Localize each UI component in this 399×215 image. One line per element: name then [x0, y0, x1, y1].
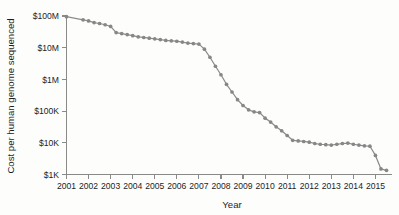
- data-point-marker: [197, 42, 201, 46]
- data-point-marker: [203, 47, 207, 51]
- data-point-marker: [131, 34, 135, 38]
- data-point-marker: [335, 142, 339, 146]
- data-point-marker: [307, 140, 311, 144]
- y-tick-label: $10K: [39, 138, 59, 148]
- data-point-marker: [313, 142, 317, 146]
- data-point-marker: [285, 134, 289, 138]
- x-tick-label: 2011: [278, 181, 297, 191]
- data-point-marker: [374, 154, 378, 158]
- data-point-marker: [92, 21, 96, 25]
- data-point-marker: [363, 144, 367, 148]
- x-tick-label: 2010: [256, 181, 275, 191]
- data-point-marker: [368, 144, 372, 148]
- y-axis-title-group: Cost per human genome sequenced: [5, 18, 16, 173]
- data-point-marker: [142, 36, 146, 40]
- series-marker-group: [65, 15, 389, 172]
- data-point-marker: [186, 41, 190, 45]
- series-line-cost-per-genome: [67, 17, 387, 171]
- data-point-marker: [147, 36, 151, 40]
- data-point-marker: [103, 23, 107, 27]
- data-point-marker: [346, 141, 350, 145]
- data-point-marker: [81, 18, 85, 22]
- chart-svg: Cost per human genome sequenced Year $10…: [0, 0, 399, 215]
- data-point-marker: [208, 55, 212, 59]
- data-point-marker: [219, 73, 223, 77]
- x-tick-label: 2012: [300, 181, 319, 191]
- data-point-marker: [87, 19, 91, 23]
- y-tick-label: $1K: [44, 170, 60, 180]
- data-point-marker: [65, 15, 69, 19]
- data-point-marker: [385, 169, 389, 173]
- data-point-marker: [341, 142, 345, 146]
- data-point-marker: [158, 38, 162, 42]
- data-point-marker: [280, 129, 284, 133]
- data-point-marker: [291, 138, 295, 142]
- x-tick-label: 2004: [123, 181, 142, 191]
- data-point-marker: [136, 35, 140, 39]
- data-point-marker: [181, 40, 185, 44]
- x-axis-title-group: Year: [222, 199, 242, 210]
- data-point-marker: [296, 139, 300, 143]
- data-point-marker: [379, 167, 383, 171]
- data-point-marker: [164, 39, 168, 43]
- x-tick-label: 2015: [366, 181, 385, 191]
- data-point-marker: [125, 33, 129, 37]
- y-tick-label: $100M: [33, 11, 59, 21]
- data-point-marker: [352, 142, 356, 146]
- data-point-marker: [109, 25, 113, 29]
- y-axis-title: Cost per human genome sequenced: [5, 18, 16, 173]
- x-tick-label: 2002: [79, 181, 98, 191]
- data-point-marker: [269, 120, 273, 124]
- x-tick-label: 2009: [233, 181, 252, 191]
- x-tick-label: 2001: [57, 181, 76, 191]
- data-point-marker: [153, 37, 157, 41]
- data-point-marker: [175, 39, 179, 43]
- data-point-marker: [263, 116, 267, 120]
- data-point-marker: [214, 64, 218, 68]
- data-point-marker: [192, 42, 196, 46]
- data-point-marker: [324, 143, 328, 147]
- x-tick-label: 2014: [344, 181, 363, 191]
- chart-figure: Cost per human genome sequenced Year $10…: [0, 0, 399, 215]
- data-point-marker: [252, 110, 256, 114]
- data-point-marker: [302, 140, 306, 144]
- data-point-marker: [241, 104, 245, 108]
- x-tick-label: 2006: [167, 181, 186, 191]
- x-tick-label: 2008: [211, 181, 230, 191]
- data-point-marker: [247, 108, 251, 112]
- y-tick-label: $100K: [34, 106, 59, 116]
- data-point-marker: [114, 31, 118, 35]
- x-tick-label: 2007: [189, 181, 208, 191]
- y-tick-label: $1M: [42, 75, 59, 85]
- data-point-marker: [274, 125, 278, 129]
- data-point-marker: [258, 111, 262, 115]
- x-tick-group: 2001200220032004200520062007200820092010…: [57, 175, 385, 192]
- x-tick-label: 2005: [145, 181, 164, 191]
- y-tick-label: $10M: [38, 43, 60, 53]
- data-point-marker: [120, 32, 124, 36]
- data-point-marker: [98, 22, 102, 26]
- data-point-marker: [169, 39, 173, 43]
- data-point-marker: [357, 143, 361, 147]
- data-point-marker: [329, 143, 333, 147]
- data-point-marker: [318, 142, 322, 146]
- x-axis-title: Year: [222, 199, 242, 210]
- x-tick-label: 2003: [101, 181, 120, 191]
- x-tick-label: 2013: [322, 181, 341, 191]
- data-point-marker: [225, 82, 229, 86]
- y-tick-group: $100M$10M$1M$100K$10K$1K: [33, 11, 67, 180]
- data-point-marker: [236, 98, 240, 102]
- data-point-marker: [230, 90, 234, 94]
